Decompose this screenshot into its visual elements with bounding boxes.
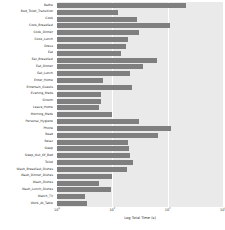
bar-row <box>57 78 103 83</box>
chart-figure: BatheBed_Toilet_TransitionCookCook_Break… <box>0 0 225 230</box>
y-axis-tick-label: Personal_Hygiene <box>26 120 53 124</box>
bar <box>57 17 137 22</box>
y-axis-tick-label: Evening_Meds <box>31 92 53 96</box>
bar-row <box>57 17 137 22</box>
y-axis-tick-label: Groom <box>43 99 53 103</box>
bar <box>57 30 139 35</box>
bar <box>57 201 87 206</box>
bar-row <box>57 3 186 8</box>
x-axis-tick-label: 104 <box>165 208 171 213</box>
y-axis-tick-label: Leave_Home <box>33 106 53 110</box>
bar <box>57 3 186 8</box>
bar <box>57 181 99 186</box>
bar <box>57 64 143 69</box>
bar-row <box>57 99 101 104</box>
bar-row <box>57 64 143 69</box>
bar-row <box>57 85 132 90</box>
bar-row <box>57 140 128 145</box>
y-axis-tick-label: Eat_Breakfast <box>32 58 53 62</box>
bar <box>57 105 99 110</box>
y-axis-tick-label: Dress <box>44 45 53 49</box>
y-axis-tick-label: Eat_Lunch <box>37 72 53 76</box>
bar <box>57 10 118 15</box>
bar <box>57 44 126 49</box>
y-axis-tick-label: Wash_Dinner_Dishes <box>21 174 53 178</box>
bar-row <box>57 58 157 63</box>
y-axis-tick-label: Eat <box>48 51 53 55</box>
y-axis-tick-label: Morning_Meds <box>31 113 53 117</box>
bar <box>57 133 158 138</box>
y-axis-tick-label: Sleep <box>44 147 53 151</box>
y-axis-tick-label: Cook_Dinner <box>33 31 53 35</box>
y-axis-tick-label: Entertain_Guests <box>27 86 53 90</box>
y-axis-tick-label: Cook <box>45 17 53 21</box>
y-axis-tick-label: Wash_Breakfast_Dishes <box>17 168 53 172</box>
bar <box>57 37 128 42</box>
bar-row <box>57 37 128 42</box>
bar <box>57 146 129 151</box>
y-axis-tick-label: Watch_TV <box>38 195 53 199</box>
y-axis-tick-label: Relax <box>45 140 54 144</box>
y-axis-tick-label: Phone <box>43 127 53 131</box>
bar-row <box>57 10 118 15</box>
y-axis-tick-label: Eat_Dinner <box>36 65 53 69</box>
bar <box>57 71 130 76</box>
bar <box>57 112 112 117</box>
bar-row <box>57 201 87 206</box>
bar-row <box>57 112 112 117</box>
y-axis-tick-label: Bathe <box>44 4 53 8</box>
bar-row <box>57 23 170 28</box>
x-axis-tick-label: 106 <box>220 208 225 213</box>
bar-row <box>57 167 127 172</box>
y-axis-tick-label: Wash_Dishes <box>33 181 53 185</box>
bar <box>57 99 101 104</box>
x-axis-title: Log Total Time (s) <box>57 216 223 221</box>
bar <box>57 160 133 165</box>
plot-area <box>57 2 223 207</box>
bar-row <box>57 174 112 179</box>
bar <box>57 126 171 131</box>
bar <box>57 51 121 56</box>
bar <box>57 23 170 28</box>
bar-row <box>57 133 158 138</box>
bar-row <box>57 30 139 35</box>
bar-row <box>57 44 126 49</box>
bar <box>57 194 85 199</box>
bar <box>57 167 127 172</box>
bar-row <box>57 105 99 110</box>
bar <box>57 140 128 145</box>
bar <box>57 78 103 83</box>
bar-row <box>57 187 111 192</box>
y-axis-tick-label: Enter_Home <box>34 79 53 83</box>
y-axis-tick-label: Cook_Breakfast <box>29 24 53 28</box>
bar-row <box>57 126 171 131</box>
y-axis-tick-label: Toilet <box>45 161 53 165</box>
bar-row <box>57 119 139 124</box>
bar-row <box>57 51 121 56</box>
bar <box>57 58 157 63</box>
bar <box>57 119 139 124</box>
bar <box>57 153 130 158</box>
x-axis-tick-label: 100 <box>54 208 60 213</box>
bar-series <box>57 2 223 207</box>
bar-row <box>57 92 101 97</box>
y-axis-tick-label: Read <box>45 133 53 137</box>
bar <box>57 85 132 90</box>
y-axis-tick-label: Sleep_Out_Of_Bed <box>25 154 53 158</box>
bar-row <box>57 194 85 199</box>
y-axis-tick-label: Bed_Toilet_Transition <box>21 10 53 14</box>
y-axis-tick-label: Work_At_Table <box>31 202 53 206</box>
bar-row <box>57 146 129 151</box>
bar-row <box>57 153 130 158</box>
bar-row <box>57 160 133 165</box>
bar-row <box>57 71 130 76</box>
bar-row <box>57 181 99 186</box>
y-axis-tick-labels: BatheBed_Toilet_TransitionCookCook_Break… <box>0 2 55 207</box>
x-axis-tick-label: 102 <box>109 208 115 213</box>
y-axis-tick-label: Wash_Lunch_Dishes <box>22 188 53 192</box>
bar <box>57 92 101 97</box>
y-axis-tick-label: Cook_Lunch <box>34 38 53 42</box>
bar <box>57 174 112 179</box>
bar <box>57 187 111 192</box>
